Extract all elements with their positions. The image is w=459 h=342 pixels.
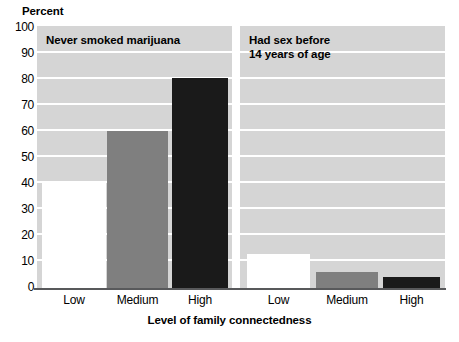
y-tick-90: 90 <box>0 47 34 59</box>
gridline-90 <box>37 51 232 53</box>
gridline-20 <box>240 233 445 235</box>
y-tick-20: 20 <box>0 229 34 241</box>
bar-right-low <box>247 254 310 288</box>
bar-chart: Percent 100 90 80 70 60 50 40 30 20 10 0… <box>0 0 459 342</box>
x-label-right-high: High <box>383 293 440 307</box>
gridline-30 <box>240 207 445 209</box>
bar-left-high <box>172 78 228 288</box>
bar-right-high <box>383 277 440 288</box>
plot-area: Never smoked marijuana Had sex before 14… <box>37 26 445 288</box>
y-tick-80: 80 <box>0 73 34 85</box>
gridline-80 <box>240 77 445 79</box>
y-tick-60: 60 <box>0 125 34 137</box>
y-tick-10: 10 <box>0 255 34 267</box>
gridline-70 <box>240 103 445 105</box>
panel-right-title: Had sex before 14 years of age <box>249 33 331 61</box>
panel-never-smoked-marijuana: Never smoked marijuana <box>37 26 232 288</box>
y-axis-tick-labels: 100 90 80 70 60 50 40 30 20 10 0 <box>0 0 34 342</box>
x-label-right-medium: Medium <box>316 293 378 307</box>
panel-had-sex-before-14: Had sex before 14 years of age <box>240 26 445 288</box>
y-tick-100: 100 <box>0 21 34 33</box>
x-axis-line <box>34 288 446 290</box>
y-tick-40: 40 <box>0 177 34 189</box>
gridline-60 <box>240 129 445 131</box>
x-label-left-medium: Medium <box>107 293 168 307</box>
x-axis-title: Level of family connectedness <box>0 314 459 326</box>
bar-right-medium <box>316 272 378 288</box>
x-label-right-low: Low <box>247 293 310 307</box>
bar-left-low <box>42 181 106 288</box>
x-label-left-high: High <box>172 293 228 307</box>
y-tick-0: 0 <box>0 281 34 293</box>
x-label-left-low: Low <box>42 293 106 307</box>
y-tick-50: 50 <box>0 151 34 163</box>
gridline-50 <box>240 155 445 157</box>
gridline-40 <box>240 181 445 183</box>
bar-left-medium <box>107 131 168 288</box>
panel-left-title: Never smoked marijuana <box>46 33 180 47</box>
y-tick-30: 30 <box>0 203 34 215</box>
y-tick-70: 70 <box>0 99 34 111</box>
